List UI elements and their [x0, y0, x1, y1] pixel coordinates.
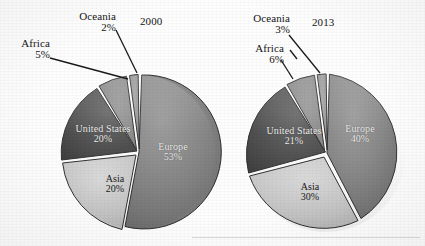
label-africa-2013: Africa 6% [238, 43, 284, 66]
leader-oceania-2000 [116, 30, 137, 73]
label-africa-2000: Africa 5% [5, 38, 50, 61]
label-europe-2000-pct: 53% [150, 152, 196, 162]
label-united-states-2013-pct: 21% [251, 136, 337, 146]
label-oceania-2013: Oceania 3% [228, 13, 290, 36]
leader-africa-2013 [290, 50, 297, 59]
chart-title-2013: 2013 [312, 17, 334, 28]
label-africa-2013-pct: 6% [238, 54, 284, 65]
label-europe-2000: Europe 53% [150, 142, 196, 163]
label-united-states-2000: United States 20% [60, 124, 146, 145]
pie-2013 [246, 74, 405, 232]
leader-lines-2013 [281, 35, 320, 79]
label-oceania-2013-pct: 3% [228, 24, 290, 35]
chart-title-2000: 2000 [140, 16, 162, 27]
figure-canvas: Oceania 2% Africa 5% 2000 United States … [0, 0, 425, 246]
pie-2000 [61, 75, 221, 230]
label-europe-2013: Europe 40% [337, 124, 383, 145]
label-united-states-2013: United States 21% [251, 126, 337, 147]
label-asia-2013-pct: 30% [290, 192, 330, 202]
label-africa-2000-pct: 5% [5, 49, 50, 60]
label-oceania-2000-pct: 2% [54, 22, 116, 33]
label-oceania-2000: Oceania 2% [54, 11, 116, 34]
label-asia-2000: Asia 20% [95, 174, 135, 195]
leader-africa-2000 [50, 58, 128, 79]
label-asia-2013: Asia 30% [290, 182, 330, 203]
label-united-states-2000-pct: 20% [60, 134, 146, 144]
label-asia-2000-pct: 20% [95, 184, 135, 194]
footer-divider [192, 237, 420, 238]
label-europe-2013-pct: 40% [337, 134, 383, 144]
leader-lines-2000 [50, 30, 137, 79]
